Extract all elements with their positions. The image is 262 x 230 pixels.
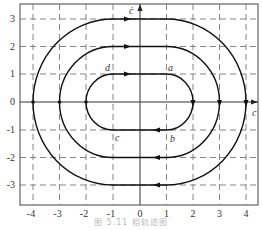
arrow-right-icon <box>124 72 131 77</box>
y-tick: 0 <box>10 96 15 107</box>
y-tick: 1 <box>10 68 15 79</box>
arrow-left-icon <box>153 155 160 160</box>
arrow-right-icon <box>124 44 131 49</box>
point-label-c: c <box>115 132 120 143</box>
y-tick-labels: 3 2 1 0 -1 -2 -3 <box>7 13 15 190</box>
phase-portrait: c ċ -4 -3 -2 -1 0 1 2 3 4 3 2 1 0 -1 -2 … <box>0 0 262 230</box>
y-tick: -1 <box>7 124 15 135</box>
point-marker <box>84 100 88 104</box>
x-axis-arrow-icon <box>251 100 258 105</box>
arrow-down-icon <box>244 100 249 107</box>
figure-caption: 图 5.11 相轨迹图 <box>0 216 262 227</box>
point-label-d: d <box>105 62 111 73</box>
arrow-right-icon <box>124 17 131 22</box>
y-tick: -2 <box>7 152 15 163</box>
arrow-left-icon <box>153 183 160 188</box>
arrow-down-icon <box>217 100 222 107</box>
plot-frame <box>20 4 258 205</box>
y-axis-label: ċ <box>129 5 134 16</box>
x-axis-label: c <box>252 107 257 118</box>
point-label-b: b <box>170 133 175 144</box>
point-marker <box>31 100 35 104</box>
y-tick: 2 <box>10 41 15 52</box>
y-tick: 3 <box>10 13 15 24</box>
y-axis-arrow-icon <box>138 4 143 11</box>
arrow-down-icon <box>191 100 196 107</box>
y-tick: -3 <box>7 179 15 190</box>
point-label-a: a <box>168 62 173 73</box>
arrow-left-icon <box>153 128 160 133</box>
point-marker <box>58 100 62 104</box>
